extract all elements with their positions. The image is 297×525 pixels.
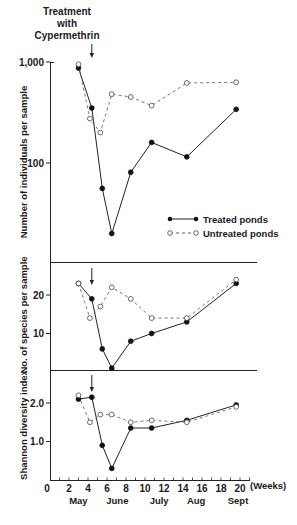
legend-untreated: Untreated ponds	[168, 228, 279, 239]
treated-series-line	[79, 68, 237, 234]
treated-point	[109, 466, 114, 471]
legend-treated-label: Treated ponds	[203, 214, 268, 225]
treated-point	[128, 339, 133, 344]
y-tick-label: 20	[33, 290, 45, 301]
month-label: Aug	[187, 495, 206, 506]
treated-point	[100, 186, 105, 191]
axes	[50, 62, 257, 481]
untreated-series-line	[79, 280, 237, 319]
treated-point	[89, 106, 94, 111]
untreated-point	[98, 412, 103, 417]
untreated-point	[109, 412, 114, 417]
x-tick-label: 0	[44, 483, 50, 494]
treated-point	[100, 443, 105, 448]
untreated-point	[98, 304, 103, 309]
untreated-series-line	[79, 395, 237, 422]
month-label: May	[69, 495, 88, 506]
untreated-point	[88, 116, 93, 121]
untreated-point	[234, 404, 239, 409]
x-axis-label: (Weeks)	[250, 480, 286, 491]
untreated-point	[88, 316, 93, 321]
annotation-line-3: Cypermethrin	[34, 30, 99, 41]
untreated-point	[88, 420, 93, 425]
panel-individuals: Number of individuals per sample1,000100	[18, 57, 239, 239]
x-tick-label: 2	[66, 483, 72, 494]
y-tick-label: 100	[27, 158, 44, 169]
filled-circle-marker-icon	[168, 217, 173, 222]
x-tick-label: 8	[123, 483, 129, 494]
untreated-point	[109, 285, 114, 290]
y-tick-label: 1,000	[19, 57, 44, 68]
legend-untreated-label: Untreated ponds	[203, 228, 278, 239]
untreated-point	[76, 62, 81, 67]
untreated-point	[234, 277, 239, 282]
legend: Treated ponds Untreated ponds	[168, 214, 279, 239]
untreated-point	[76, 281, 81, 286]
untreated-point	[128, 420, 133, 425]
untreated-point	[128, 95, 133, 100]
treated-point	[89, 395, 94, 400]
untreated-series-line	[79, 64, 237, 132]
y-axis-label: No. of species per sample	[18, 256, 29, 373]
treated-point	[128, 426, 133, 431]
untreated-point	[184, 420, 189, 425]
treated-point	[109, 366, 114, 371]
y-tick-label: 1.0	[30, 436, 44, 447]
treated-point	[149, 140, 154, 145]
figure: Treatment with Cypermethrin Number of in…	[0, 0, 297, 525]
untreated-point	[149, 418, 154, 423]
untreated-point	[184, 316, 189, 321]
untreated-point	[76, 393, 81, 398]
x-tick-label: 16	[196, 483, 208, 494]
treated-point	[109, 231, 114, 236]
treated-series-line	[79, 283, 237, 368]
x-tick-label: 12	[158, 483, 170, 494]
untreated-point	[234, 80, 239, 85]
treated-series-line	[79, 397, 237, 468]
untreated-point	[109, 92, 114, 97]
y-tick-label: 10	[33, 328, 45, 339]
chart-dynamic: Number of individuals per sample1,000100…	[18, 44, 250, 506]
treatment-annotation: Treatment with Cypermethrin	[34, 6, 99, 41]
x-tick-label: 4	[85, 483, 91, 494]
untreated-point	[149, 103, 154, 108]
y-axis-label: Shannon diversity index	[18, 369, 29, 480]
untreated-point	[149, 316, 154, 321]
treated-point	[149, 426, 154, 431]
x-tick-label: 10	[139, 483, 151, 494]
treated-point	[100, 347, 105, 352]
untreated-point	[184, 81, 189, 86]
x-tick-label: 6	[104, 483, 110, 494]
legend-treated: Treated ponds	[168, 214, 268, 225]
month-label: Sept	[228, 495, 249, 506]
treated-point	[89, 296, 94, 301]
treated-point	[234, 107, 239, 112]
panel-species: No. of species per sample1020	[18, 256, 239, 373]
month-label: June	[106, 495, 128, 506]
annotation-line-2: with	[56, 18, 77, 29]
treated-point	[184, 154, 189, 159]
arrow-down-icon	[90, 53, 94, 58]
x-tick-label: 20	[234, 483, 246, 494]
panel-diversity: Shannon diversity index1.02.0	[18, 369, 239, 480]
untreated-point	[98, 130, 103, 135]
month-label: July	[150, 495, 170, 506]
untreated-point	[128, 296, 133, 301]
x-tick-label: 14	[177, 483, 189, 494]
annotation-line-1: Treatment	[43, 6, 91, 17]
arrow-down-icon	[90, 387, 94, 392]
treated-point	[149, 331, 154, 336]
y-tick-label: 2.0	[30, 398, 44, 409]
open-circle-marker-icon	[168, 231, 173, 236]
x-tick-label: 18	[215, 483, 227, 494]
arrow-down-icon	[90, 280, 94, 285]
treated-point	[128, 170, 133, 175]
